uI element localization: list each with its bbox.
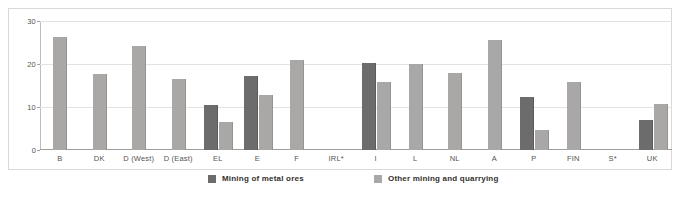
bar-other-mining-and-quarrying (567, 82, 581, 150)
x-tick-label: NL (450, 154, 460, 163)
y-tick-label: 10 (27, 103, 36, 112)
bar-other-mining-and-quarrying (377, 82, 391, 150)
bar-group (46, 21, 78, 150)
legend-label: Other mining and quarrying (388, 174, 499, 183)
bar-group (244, 21, 276, 150)
legend-label: Mining of metal ores (222, 174, 304, 183)
x-tick-label: FIN (567, 154, 580, 163)
plot-area: 0102030 BDKD (West)D (East)ELEFIRL*ILNLA… (40, 21, 672, 150)
y-tick-label: 20 (27, 60, 36, 69)
bar-group (599, 21, 631, 150)
bars-layer (40, 21, 672, 150)
bar-other-mining-and-quarrying (535, 130, 549, 150)
bar-group (283, 21, 315, 150)
bar-other-mining-and-quarrying (172, 79, 186, 150)
bar-group (323, 21, 355, 150)
x-tick-label: S* (609, 154, 617, 163)
bar-group (165, 21, 197, 150)
y-tick-label: 0 (32, 146, 36, 155)
y-tick-mark (37, 150, 40, 151)
bar-other-mining-and-quarrying (132, 46, 146, 150)
x-tick-label: D (East) (164, 154, 193, 163)
bar-mining-of-metal-ores (244, 76, 258, 150)
bar-other-mining-and-quarrying (654, 104, 668, 150)
bar-other-mining-and-quarrying (259, 95, 273, 150)
bar-mining-of-metal-ores (204, 105, 218, 150)
bar-group (560, 21, 592, 150)
bar-group (639, 21, 671, 150)
x-tick-label: D (West) (123, 154, 154, 163)
x-tick-label: F (294, 154, 299, 163)
bar-other-mining-and-quarrying (290, 60, 304, 150)
bar-other-mining-and-quarrying (448, 73, 462, 150)
x-tick-label: IRL* (329, 154, 344, 163)
bar-group (481, 21, 513, 150)
legend-item-mining-of-metal-ores: Mining of metal ores (208, 174, 304, 183)
y-tick-label: 30 (27, 17, 36, 26)
bar-mining-of-metal-ores (520, 97, 534, 150)
bar-group (402, 21, 434, 150)
x-tick-label: B (57, 154, 62, 163)
x-tick-label: UK (647, 154, 658, 163)
legend-item-other-mining-and-quarrying: Other mining and quarrying (374, 174, 499, 183)
x-tick-label: P (531, 154, 536, 163)
bar-group (441, 21, 473, 150)
bar-group (204, 21, 236, 150)
x-tick-label: E (255, 154, 260, 163)
x-tick-label: EL (213, 154, 223, 163)
bar-other-mining-and-quarrying (488, 40, 502, 151)
x-tick-label: DK (94, 154, 105, 163)
bar-other-mining-and-quarrying (93, 74, 107, 150)
bar-group (520, 21, 552, 150)
bar-mining-of-metal-ores (639, 120, 653, 150)
chart-legend: Mining of metal ores Other mining and qu… (0, 172, 681, 192)
legend-swatch-icon (374, 175, 382, 183)
bar-group (86, 21, 118, 150)
x-tick-label: L (413, 154, 417, 163)
bar-other-mining-and-quarrying (53, 37, 67, 150)
x-tick-label: I (375, 154, 377, 163)
bar-mining-of-metal-ores (362, 63, 376, 150)
legend-swatch-icon (208, 175, 216, 183)
x-tick-label: A (492, 154, 497, 163)
bar-group (362, 21, 394, 150)
bar-other-mining-and-quarrying (409, 64, 423, 150)
bar-chart-figure: 0102030 BDKD (West)D (East)ELEFIRL*ILNLA… (0, 0, 681, 197)
bar-group (125, 21, 157, 150)
bar-other-mining-and-quarrying (219, 122, 233, 150)
